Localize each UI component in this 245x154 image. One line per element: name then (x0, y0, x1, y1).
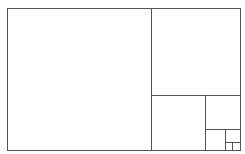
golden-rectangle-diagram (0, 0, 245, 154)
subdivision-lines (152, 9, 241, 151)
